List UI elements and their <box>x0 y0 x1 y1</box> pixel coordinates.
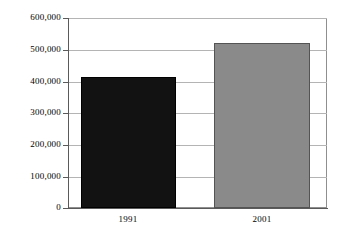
x-axis-line <box>68 208 328 209</box>
y-tick-label-400000: 400,000 <box>0 77 61 86</box>
x-tick-label-2001: 2001 <box>214 214 310 224</box>
y-tick-label-0: 0 <box>0 203 61 212</box>
y-tick-label-300000: 300,000 <box>0 108 61 117</box>
bar-2001 <box>214 43 310 208</box>
y-tick-label-200000: 200,000 <box>0 140 61 149</box>
tick-mark-500000 <box>63 50 69 51</box>
y-tick-label-500000: 500,000 <box>0 45 61 54</box>
x-tick-label-1991: 1991 <box>80 214 176 224</box>
tick-mark-200000 <box>63 145 69 146</box>
gridline-600000 <box>68 18 327 19</box>
tick-mark-100000 <box>63 177 69 178</box>
bar-1991 <box>81 77 176 208</box>
y-tick-label-600000: 600,000 <box>0 13 61 22</box>
tick-mark-0 <box>63 208 69 209</box>
y-tick-label-100000: 100,000 <box>0 172 61 181</box>
tick-mark-300000 <box>63 113 69 114</box>
bar-chart-figure: 600,000 500,000 400,000 300,000 200,000 … <box>0 0 341 240</box>
tick-mark-600000 <box>63 18 69 19</box>
tick-mark-400000 <box>63 82 69 83</box>
